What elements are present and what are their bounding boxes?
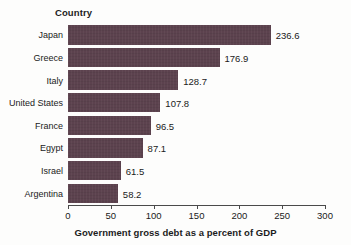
bar-row: France96.5 — [68, 115, 325, 138]
value-label: 128.7 — [183, 75, 207, 86]
value-label: 58.2 — [123, 188, 142, 199]
x-axis-tick — [154, 205, 155, 209]
x-axis-tick-label: 150 — [189, 210, 205, 221]
x-axis-tick-label: 100 — [146, 210, 162, 221]
value-label: 61.5 — [126, 166, 145, 177]
x-axis-tick — [197, 205, 198, 209]
category-label: Egypt — [40, 143, 63, 153]
bar — [68, 184, 118, 203]
x-axis-tick — [111, 205, 112, 209]
bar-row: Argentina58.2 — [68, 182, 325, 205]
x-axis-title: Government gross debt as a percent of GD… — [0, 227, 351, 238]
bar-row: Greece176.9 — [68, 47, 325, 70]
bar — [68, 48, 220, 67]
category-label: Italy — [46, 76, 63, 86]
category-axis-title: Country — [55, 7, 92, 18]
category-label: Japan — [38, 30, 63, 40]
bar — [68, 93, 160, 112]
category-label: United States — [9, 98, 63, 108]
bar-row: Italy128.7 — [68, 69, 325, 92]
x-axis-tick — [325, 205, 326, 209]
x-axis-tick-label: 0 — [65, 210, 70, 221]
bar — [68, 70, 178, 89]
category-label: Greece — [33, 53, 63, 63]
value-label: 236.6 — [276, 30, 300, 41]
bar-row: United States107.8 — [68, 92, 325, 115]
bar — [68, 116, 151, 135]
bar — [68, 25, 271, 44]
bar — [68, 138, 143, 157]
x-axis-tick-label: 300 — [317, 210, 333, 221]
bar-row: Israel61.5 — [68, 160, 325, 183]
value-label: 96.5 — [156, 120, 175, 131]
x-axis-tick-label: 200 — [231, 210, 247, 221]
x-axis-tick — [239, 205, 240, 209]
bar-row: Egypt87.1 — [68, 137, 325, 160]
value-label: 176.9 — [225, 52, 249, 63]
bar — [68, 161, 121, 180]
x-axis-tick-label: 50 — [106, 210, 117, 221]
category-label: France — [35, 121, 63, 131]
bar-chart: Country Japan236.6Greece176.9Italy128.7U… — [0, 0, 351, 245]
category-label: Argentina — [24, 189, 63, 199]
value-label: 107.8 — [165, 98, 189, 109]
bar-row: Japan236.6 — [68, 24, 325, 47]
x-axis-tick-label: 250 — [274, 210, 290, 221]
x-axis-tick — [282, 205, 283, 209]
plot-area: Japan236.6Greece176.9Italy128.7United St… — [68, 24, 325, 205]
x-axis-tick — [68, 205, 69, 209]
category-label: Israel — [41, 166, 63, 176]
value-label: 87.1 — [148, 143, 167, 154]
